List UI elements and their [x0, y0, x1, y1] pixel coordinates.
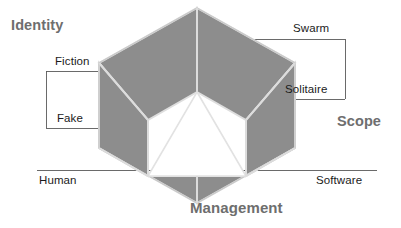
- node-label-software: Software: [316, 174, 362, 186]
- axis-label-scope: Scope: [337, 113, 381, 129]
- axis-label-identity: Identity: [11, 17, 63, 33]
- hexagon-group: [99, 8, 295, 203]
- diagram-canvas: Identity Scope Management Fiction Fake S…: [0, 0, 401, 228]
- node-label-swarm: Swarm: [293, 22, 329, 34]
- node-label-solitaire: Solitaire: [285, 83, 327, 95]
- node-label-fake: Fake: [57, 112, 83, 124]
- node-label-human: Human: [39, 174, 77, 186]
- node-label-fiction: Fiction: [55, 55, 90, 67]
- axis-label-management: Management: [190, 199, 283, 216]
